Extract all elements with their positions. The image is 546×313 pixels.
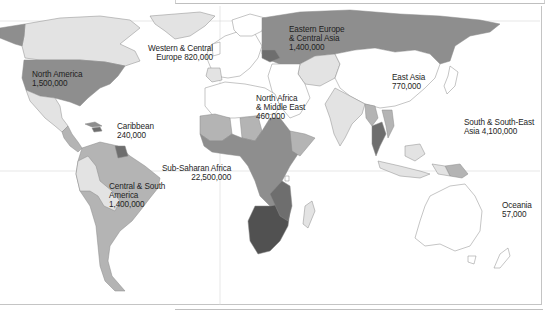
region-value: 22,500,000: [162, 173, 231, 182]
region-value: 1,400,000: [289, 43, 345, 52]
region-name: South & South-East: [464, 118, 534, 127]
region-borneo: [405, 144, 425, 161]
region-myanmar: [365, 104, 378, 126]
region-thailand: [372, 122, 386, 156]
region-uk: [212, 42, 220, 56]
region-name: North Africa: [256, 94, 305, 103]
region-canada: [22, 16, 140, 66]
label-eastern-europe-central-asia: Eastern Europe & Central Asia 1,400,000: [289, 25, 345, 52]
region-value: Asia 4,100,000: [464, 127, 534, 136]
region-name: North America: [32, 70, 83, 79]
label-caribbean: Caribbean 240,000: [117, 122, 154, 140]
region-japan: [444, 66, 458, 94]
lake-victoria: [285, 176, 289, 181]
region-iberia: [206, 68, 222, 82]
region-australia: [415, 184, 482, 251]
region-name-line2: & Middle East: [256, 103, 305, 112]
label-north-america: North America 1,500,000: [32, 70, 83, 88]
region-name-line2: America: [109, 191, 165, 200]
region-caribbean-hispaniola: [92, 127, 102, 132]
region-name: Oceania: [502, 201, 532, 210]
region-name: Eastern Europe: [289, 25, 345, 34]
region-name: Caribbean: [117, 122, 154, 131]
region-value: 1,500,000: [32, 79, 83, 88]
region-name-line2: & Central Asia: [289, 34, 345, 43]
bottom-rule: [175, 309, 543, 313]
region-alaska: [0, 24, 25, 46]
region-name: Western & Central: [148, 44, 213, 53]
region-madagascar: [303, 201, 315, 228]
region-value: 770,000: [392, 82, 425, 91]
region-indonesia: [378, 161, 430, 178]
label-north-africa-middle-east: North Africa & Middle East 460,000: [256, 94, 305, 121]
region-value: 57,000: [502, 210, 532, 219]
region-new-zealand: [494, 248, 510, 268]
label-sub-saharan-africa: Sub-Saharan Africa 22,500,000: [162, 164, 231, 182]
region-value: 1,400,000: [109, 200, 165, 209]
label-western-central-europe: Western & Central Europe 820,000: [148, 44, 213, 62]
world-map: [0, 6, 542, 305]
region-mali-mauritania: [200, 114, 232, 141]
region-name: Sub-Saharan Africa: [162, 164, 231, 173]
region-greenland: [150, 12, 215, 39]
region-value: 460,000: [256, 112, 305, 121]
region-name: East Asia: [392, 73, 425, 82]
region-value: 240,000: [117, 131, 154, 140]
region-name: Central & South: [109, 182, 165, 191]
region-scandinavia: [232, 14, 265, 36]
label-east-asia: East Asia 770,000: [392, 73, 425, 91]
label-south-southeast-asia: South & South-East Asia 4,100,000: [464, 118, 534, 136]
label-oceania: Oceania 57,000: [502, 201, 532, 219]
region-tasmania: [468, 256, 476, 264]
region-central-america: [62, 126, 82, 152]
region-horn-of-africa: [290, 131, 315, 156]
top-rule: [175, 0, 545, 4]
region-value: Europe 820,000: [148, 53, 213, 62]
label-central-south-america: Central & South America 1,400,000: [109, 182, 165, 209]
region-caribbean-cuba: [85, 122, 102, 127]
